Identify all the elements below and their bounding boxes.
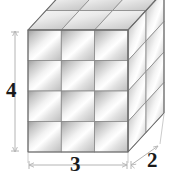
depth-dimension-label: 2 [147, 150, 158, 171]
width-dimension-label: 3 [70, 154, 81, 175]
prism-front-face [28, 30, 128, 152]
figure-canvas: 4 3 2 [0, 0, 185, 181]
height-dimension-label: 4 [6, 80, 17, 101]
